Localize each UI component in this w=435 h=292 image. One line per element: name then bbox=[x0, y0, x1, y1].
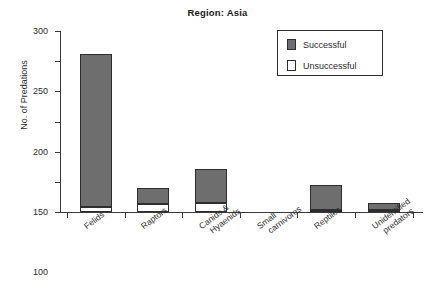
y-tick-mark: 250 bbox=[55, 61, 60, 62]
x-tick-mark bbox=[67, 212, 68, 218]
legend-label: Successful bbox=[303, 40, 347, 50]
x-tick-mark bbox=[355, 212, 356, 218]
chart-title: Region: Asia bbox=[0, 7, 435, 18]
y-tick-label: 100 bbox=[33, 267, 48, 277]
legend-swatch-icon bbox=[287, 60, 296, 71]
y-tick-mark: 100 bbox=[55, 152, 60, 153]
legend-label: Unsuccessful bbox=[303, 61, 357, 71]
x-tick-mark bbox=[125, 212, 126, 218]
y-tick-mark: 200 bbox=[55, 91, 60, 92]
y-tick-label: 300 bbox=[33, 26, 48, 36]
bar-segment-successful bbox=[195, 169, 227, 203]
y-tick-mark: 150 bbox=[55, 122, 60, 123]
y-tick-label: 150 bbox=[33, 207, 48, 217]
x-tick-mark bbox=[182, 212, 183, 218]
y-tick-mark: 0 bbox=[55, 212, 60, 213]
bar-segment-successful bbox=[80, 54, 112, 207]
y-tick-label: 250 bbox=[33, 86, 48, 96]
y-tick-mark: 300 bbox=[55, 31, 60, 32]
bar-segment-successful bbox=[137, 188, 169, 204]
legend-entry[interactable]: Unsuccessful bbox=[287, 60, 357, 71]
legend-entry[interactable]: Successful bbox=[287, 39, 347, 50]
bar-felids[interactable] bbox=[80, 54, 112, 212]
y-tick-label: 200 bbox=[33, 147, 48, 157]
legend-swatch-icon bbox=[287, 39, 296, 50]
chart-figure: Region: Asia No. of Predations 050100150… bbox=[0, 0, 435, 292]
y-tick-mark: 50 bbox=[55, 182, 60, 183]
y-axis-line bbox=[60, 31, 61, 213]
y-axis-label: No. of Predations bbox=[19, 25, 29, 165]
chart-legend: SuccessfulUnsuccessful bbox=[277, 30, 383, 76]
